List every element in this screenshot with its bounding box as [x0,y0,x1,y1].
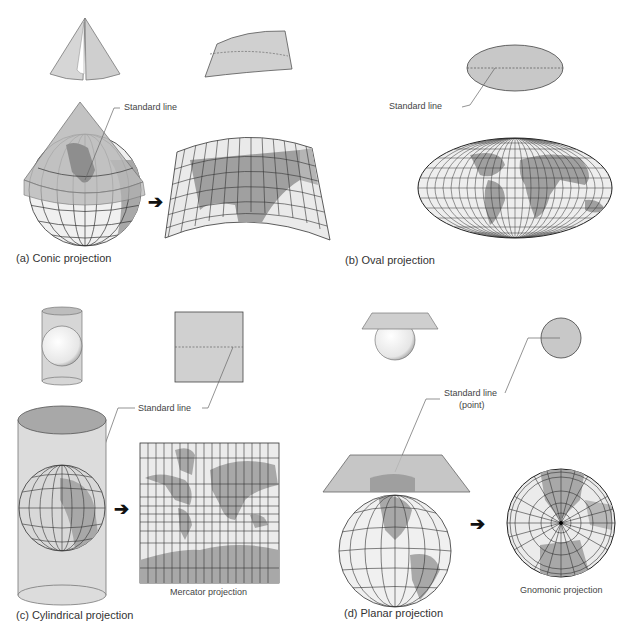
small-plane-on-sphere-icon [362,313,438,360]
conic-map-result [165,133,330,240]
caption-planar: (d) Planar projection [344,607,443,619]
caption-cylindrical: (c) Cylindrical projection [16,609,133,621]
panel-b-oval [418,45,612,238]
small-ellipse-icon [467,45,563,91]
gnomonic-label: Gnomonic projection [520,585,603,595]
caption-oval: (b) Oval projection [345,254,435,266]
globe-with-plane [323,455,470,607]
arrow-right-icon: ➔ [470,515,485,533]
panel-d-planar [323,313,615,607]
panel-c-cylindrical [18,307,279,605]
gnomonic-map [507,469,615,577]
mercator-label: Mercator projection [170,587,247,597]
standard-line-label-c: Standard line [138,403,191,413]
small-cone-icon [50,18,120,80]
projection-diagram [0,0,631,633]
standard-line-label-b: Standard line [389,101,442,111]
arrow-right-icon: ➔ [148,193,163,211]
globe-a [24,102,145,246]
unrolled-cone-icon [205,31,292,77]
standard-line-sublabel-d: (point) [459,400,485,410]
cylinder-with-globe [18,406,106,605]
caption-conic: (a) Conic projection [16,252,111,264]
panel-a-conic [24,18,330,246]
mercator-map [140,443,279,583]
oval-world-map [418,138,612,238]
standard-line-label-a: Standard line [124,102,177,112]
arrow-right-icon: ➔ [114,500,129,518]
small-cylinder-icon [42,307,82,385]
standard-line-label-d: Standard line [444,388,497,398]
